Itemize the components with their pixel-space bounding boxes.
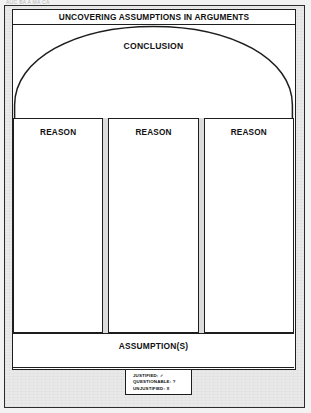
argument-diagram: UNCOVERING ASSUMPTIONS IN ARGUMENTS CONC… [12,9,296,370]
assumption-box[interactable]: ASSUMPTION(S) [13,333,294,368]
page-title: UNCOVERING ASSUMPTIONS IN ARGUMENTS [59,12,249,22]
assumption-label: ASSUMPTION(S) [13,341,294,351]
legend-key-box: JUSTIFIED: ✓ QUESTIONABLE: ? UNJUSTIFIED… [125,369,192,395]
conclusion-label: CONCLUSION [13,41,294,51]
reason-box-3[interactable]: REASON [204,118,294,333]
outer-frame: UNCOVERING ASSUMPTIONS IN ARGUMENTS CONC… [4,5,305,408]
reasons-row: REASON REASON REASON [13,118,294,333]
diagram-title-band: UNCOVERING ASSUMPTIONS IN ARGUMENTS [13,10,295,25]
reason-label-2: REASON [109,128,197,137]
conclusion-arch[interactable]: CONCLUSION [13,25,294,118]
reason-label-3: REASON [205,128,293,137]
scan-top-text-fragment: AUC BA A MA CA [6,0,136,4]
arch-shape-icon [13,25,294,118]
reason-box-1[interactable]: REASON [13,118,103,333]
reason-label-1: REASON [14,128,102,137]
scanned-page: AUC BA A MA CA UNCOVERING ASSUMPTIONS IN… [0,0,311,413]
reason-box-2[interactable]: REASON [108,118,198,333]
legend-item-unjustified: UNJUSTIFIED: X [133,386,191,392]
